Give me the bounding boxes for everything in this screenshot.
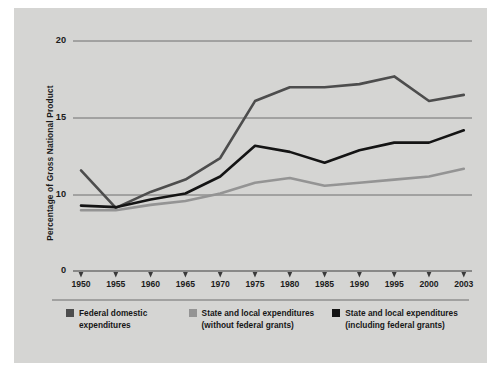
legend-label: Federal domesticexpenditures (79, 308, 147, 331)
x-tick-mark (427, 272, 432, 278)
legend-swatch-icon (189, 309, 197, 317)
y-tick-label: 0 (44, 265, 66, 275)
x-tick-mark (218, 272, 223, 278)
series-lines (81, 76, 464, 210)
legend-label: State and local expenditures(including f… (345, 308, 458, 331)
x-tick-mark (253, 272, 258, 278)
x-tick-label: 2003 (444, 279, 484, 289)
x-tick-mark (322, 272, 327, 278)
legend-swatch-icon (66, 309, 74, 317)
series-line-2 (81, 130, 464, 207)
x-tick-marks (79, 272, 467, 278)
gridlines (73, 41, 472, 271)
x-tick-mark (113, 272, 118, 278)
x-tick-mark (183, 272, 188, 278)
y-tick-label: 20 (44, 35, 66, 45)
legend-label: State and local expenditures(without fed… (202, 308, 315, 331)
series-line-1 (81, 169, 464, 210)
y-tick-label: 10 (44, 189, 66, 199)
x-tick-mark (287, 272, 292, 278)
x-tick-mark (148, 272, 153, 278)
chart-figure: Percentage of Gross National Product 010… (14, 8, 487, 363)
legend-item-state-local-without-grants[interactable]: State and local expenditures(without fed… (189, 308, 333, 331)
chart-legend: Federal domesticexpenditures State and l… (66, 308, 476, 331)
legend-item-federal-domestic[interactable]: Federal domesticexpenditures (66, 308, 189, 331)
x-tick-mark (461, 272, 466, 278)
legend-item-state-local-including-grants[interactable]: State and local expenditures(including f… (332, 308, 476, 331)
x-tick-mark (392, 272, 397, 278)
x-tick-mark (357, 272, 362, 278)
legend-swatch-icon (332, 309, 340, 317)
y-tick-label: 15 (44, 112, 66, 122)
x-tick-mark (79, 272, 84, 278)
